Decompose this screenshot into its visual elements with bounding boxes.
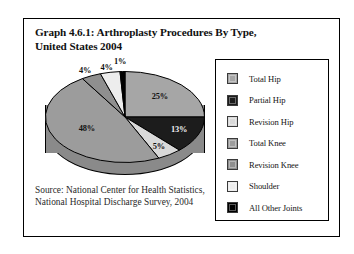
legend-item-label: Total Knee	[249, 138, 286, 148]
legend-item-label: Shoulder	[249, 181, 279, 191]
legend-item-label: All Other Joints	[249, 203, 302, 213]
legend-item: Partial Hip	[216, 90, 328, 112]
pie-slice-label: 25%	[152, 92, 168, 101]
legend-item-label: Revision Knee	[249, 160, 299, 170]
legend-swatch-icon	[227, 95, 238, 106]
pie-slice-label: 4%	[79, 66, 91, 75]
pie-slice-label: 5%	[153, 142, 165, 151]
pie-slice-label: 1%	[114, 57, 126, 66]
legend-item: Shoulder	[216, 176, 328, 198]
legend-item: Revision Knee	[216, 154, 328, 176]
legend-item-label: Revision Hip	[249, 117, 293, 127]
pie-top-face	[45, 71, 205, 163]
legend-swatch-icon	[227, 116, 238, 127]
title-line-1: Graph 4.6.1: Arthroplasty Procedures By …	[35, 26, 256, 38]
source-line-2: National Hospital Discharge Survey, 2004	[35, 197, 225, 209]
pie-slices-svg	[45, 71, 205, 163]
source-note: Source: National Center for Health Stati…	[35, 185, 225, 208]
legend-item: All Other Joints	[216, 197, 328, 219]
chart-legend: Total HipPartial HipRevision HipTotal Kn…	[215, 59, 329, 221]
figure-frame: Graph 4.6.1: Arthroplasty Procedures By …	[23, 18, 340, 237]
legend-swatch-icon	[227, 73, 238, 84]
legend-swatch-icon	[227, 138, 238, 149]
legend-item-label: Partial Hip	[249, 95, 285, 105]
legend-swatch-icon	[227, 159, 238, 170]
legend-item-label: Total Hip	[249, 74, 281, 84]
source-line-1: Source: National Center for Health Stati…	[35, 185, 205, 195]
legend-swatch-icon	[227, 181, 238, 192]
legend-swatch-icon	[227, 202, 238, 213]
legend-item: Total Knee	[216, 133, 328, 155]
pie-chart: 25%13%5%48%4%4%1%	[38, 53, 213, 188]
legend-item: Total Hip	[216, 68, 328, 90]
page-title: Graph 4.6.1: Arthroplasty Procedures By …	[35, 25, 280, 53]
legend-item: Revision Hip	[216, 111, 328, 133]
title-line-2: United States 2004	[35, 39, 280, 53]
pie-slice-label: 13%	[171, 125, 187, 134]
pie-slice-label: 48%	[79, 124, 95, 133]
pie-slice-label: 4%	[101, 63, 113, 72]
